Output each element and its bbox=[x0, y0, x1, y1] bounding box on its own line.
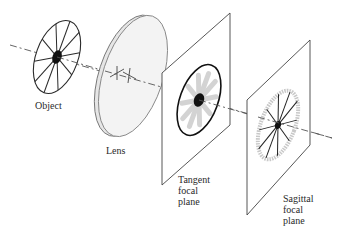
object-wheel bbox=[24, 14, 89, 100]
tangent-plane-label: Tangent focal plane bbox=[178, 174, 210, 207]
lens-label: Lens bbox=[106, 145, 125, 156]
astigmatism-diagram: Object Lens Tangent focal plane Sagittal… bbox=[0, 0, 345, 228]
tangent-focal-plane bbox=[162, 13, 230, 185]
sagittal-plane-label: Sagittal focal plane bbox=[283, 193, 314, 226]
sagittal-focal-plane bbox=[247, 40, 310, 215]
object-label: Object bbox=[35, 100, 62, 111]
